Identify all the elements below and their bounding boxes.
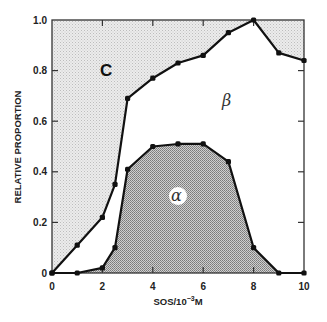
data-point — [150, 144, 155, 149]
x-tick-label: 2 — [100, 281, 106, 292]
data-point — [226, 159, 231, 164]
data-point — [226, 30, 231, 35]
data-point — [75, 243, 80, 248]
y-tick-label: 0.4 — [33, 166, 47, 177]
data-point — [301, 58, 306, 63]
data-point — [175, 60, 180, 65]
data-point — [112, 245, 117, 250]
data-point — [100, 215, 105, 220]
region-label-C: C — [100, 61, 112, 80]
data-point — [251, 17, 256, 22]
data-point — [112, 182, 117, 187]
data-point — [75, 270, 80, 275]
x-tick-label: 10 — [298, 281, 310, 292]
data-point — [49, 270, 54, 275]
data-point — [175, 141, 180, 146]
data-point — [251, 245, 256, 250]
y-tick-label: 0.8 — [33, 65, 47, 76]
data-point — [201, 141, 206, 146]
data-point — [125, 96, 130, 101]
y-tick-label: 1.0 — [33, 15, 47, 26]
y-tick-label: 0.6 — [33, 116, 47, 127]
x-tick-label: 0 — [49, 281, 55, 292]
region-label-alpha: α — [171, 186, 182, 205]
x-tick-label: 4 — [150, 281, 156, 292]
data-point — [301, 270, 306, 275]
data-point — [125, 167, 130, 172]
y-tick-label: 0.2 — [33, 217, 47, 228]
x-tick-label: 6 — [200, 281, 206, 292]
data-point — [276, 270, 281, 275]
y-tick-label: 0 — [41, 268, 47, 279]
y-axis-title: RELATIVE PROPORTION — [12, 90, 23, 203]
x-tick-label: 8 — [251, 281, 257, 292]
data-point — [100, 265, 105, 270]
data-point — [201, 53, 206, 58]
chart: 024681000.20.40.60.81.0 C β α SOS/10−3M … — [0, 0, 327, 322]
data-point — [150, 76, 155, 81]
x-axis-title: SOS/10−3M — [153, 295, 202, 307]
region-label-beta: β — [221, 91, 231, 110]
data-point — [276, 50, 281, 55]
